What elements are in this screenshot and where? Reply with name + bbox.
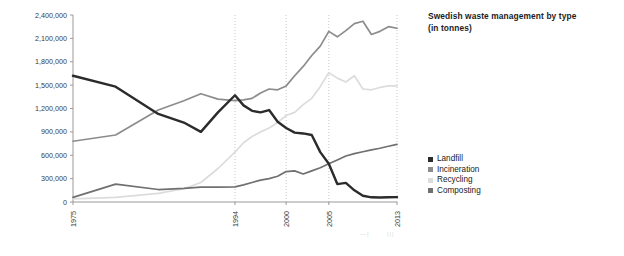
y-tick-label: 0 (63, 198, 67, 207)
y-axis-ticks-group: 0300,000600,000900,0001,200,0001,500,000… (35, 11, 73, 207)
x-tick-label: 2005 (325, 211, 334, 227)
legend-swatch-icon (428, 188, 433, 193)
y-tick-label: 2,100,000 (35, 34, 67, 43)
legend-item-composting[interactable]: Composting (428, 186, 578, 197)
legend-label: Recycling (437, 175, 473, 186)
legend-swatch-icon (428, 167, 433, 172)
legend-label: Composting (437, 186, 481, 197)
y-tick-label: 900,000 (41, 127, 67, 136)
artifact-mark-a: —| (360, 231, 370, 237)
legend-item-landfill[interactable]: Landfill (428, 154, 578, 165)
x-tick-label: 1994 (231, 211, 240, 227)
series-line-landfill (73, 76, 397, 198)
legend-item-incineration[interactable]: Incineration (428, 165, 578, 176)
x-axis-ticks-group: 19751994200020052013 (69, 202, 402, 227)
chart-legend: LandfillIncinerationRecyclingComposting (428, 154, 578, 196)
x-tick-label: 2000 (282, 211, 291, 227)
legend-label: Landfill (437, 154, 463, 165)
chart-title: Swedish waste management by type (in ton… (428, 10, 618, 34)
y-tick-label: 1,800,000 (35, 57, 67, 66)
chart-title-line-1: Swedish waste management by type (428, 10, 618, 22)
chart-title-line-2: (in tonnes) (428, 22, 618, 34)
y-tick-label: 600,000 (41, 151, 67, 160)
legend-label: Incineration (437, 165, 479, 176)
series-paths-group (73, 21, 397, 199)
x-tick-label: 1975 (69, 211, 78, 227)
y-tick-label: 300,000 (41, 174, 67, 183)
x-tick-label: 2013 (393, 211, 402, 227)
legend-swatch-icon (428, 157, 433, 162)
y-tick-label: 2,400,000 (35, 11, 67, 20)
gridlines-group (235, 15, 397, 202)
legend-swatch-icon (428, 178, 433, 183)
line-chart-svg: 0300,000600,000900,0001,200,0001,500,000… (0, 0, 624, 256)
artifact-mark-b: ||| (387, 231, 395, 237)
y-tick-label: 1,200,000 (35, 104, 67, 113)
y-tick-label: 1,500,000 (35, 81, 67, 90)
chart-root: 0300,000600,000900,0001,200,0001,500,000… (0, 0, 624, 256)
legend-item-recycling[interactable]: Recycling (428, 175, 578, 186)
